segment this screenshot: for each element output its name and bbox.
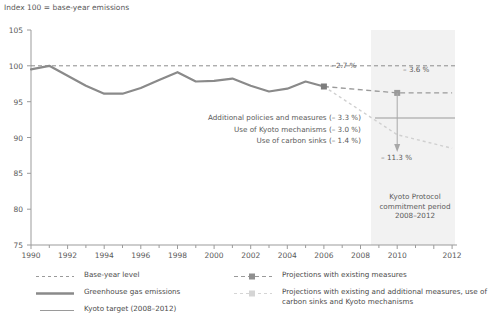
chart-legend: Base-year level Greenhouse gas emissions… [0, 266, 471, 322]
label-total-reduction: – 11.3 % [381, 153, 412, 162]
legend-label-projections-additional: Projections with existing and additional… [282, 287, 492, 307]
x-tick-label-2004: 2004 [270, 251, 304, 260]
kyoto-band-label-line-3: 2008–2012 [372, 211, 458, 221]
y-tick-label-90: 90 [1, 134, 23, 143]
legend-key-solid-thick-icon [34, 285, 78, 302]
legend-key-dashed-icon [34, 268, 78, 285]
kyoto-band-label-line-1: Kyoto Protocol [372, 192, 458, 202]
measure-line-3: Use of carbon sinks (– 1.4 %) [208, 135, 361, 147]
legend-label-greenhouse-gas-emissions: Greenhouse gas emissions [84, 287, 180, 297]
x-tick-label-2008: 2008 [344, 251, 378, 260]
x-tick-label-1996: 1996 [124, 251, 158, 260]
y-tick-label-80: 80 [1, 205, 23, 214]
label-emissions-2006: – 2.7 % [330, 61, 356, 70]
measure-line-2: Use of Kyoto mechanisms (– 3.0 %) [208, 124, 361, 136]
y-tick-label-100: 100 [1, 62, 23, 71]
legend-key-solid-thin-icon [34, 302, 78, 319]
x-tick-marks [31, 245, 452, 249]
measure-line-1: Additional policies and measures (– 3.3 … [208, 112, 361, 124]
x-tick-label-1992: 1992 [51, 251, 85, 260]
y-tick-label-95: 95 [1, 98, 23, 107]
marker-emissions-2006 [321, 84, 327, 90]
x-tick-label-2000: 2000 [197, 251, 231, 260]
x-tick-label-2002: 2002 [234, 251, 268, 260]
x-tick-label-2012: 2012 [435, 251, 469, 260]
legend-key-dashed-marker-icon [232, 268, 276, 285]
kyoto-band-label-line-2: commitment period [372, 202, 458, 212]
x-tick-label-1994: 1994 [87, 251, 121, 260]
y-tick-marks [27, 30, 31, 245]
legend-key-dotted-light-icon [232, 285, 276, 302]
x-tick-label-2006: 2006 [307, 251, 341, 260]
y-tick-label-75: 75 [1, 241, 23, 250]
label-projection-2010: – 3.6 % [403, 65, 429, 74]
y-tick-label-105: 105 [1, 26, 23, 35]
legend-label-base-year-level: Base-year level [84, 270, 139, 280]
x-tick-label-1998: 1998 [161, 251, 195, 260]
measures-annotation-block: Additional policies and measures (– 3.3 … [208, 112, 361, 147]
legend-label-kyoto-target: Kyoto target (2008–2012) [84, 304, 176, 314]
y-tick-label-85: 85 [1, 169, 23, 178]
greenhouse-gas-emissions-line [31, 66, 324, 94]
kyoto-band-label: Kyoto Protocol commitment period 2008–20… [372, 192, 458, 221]
x-tick-label-1990: 1990 [14, 251, 48, 260]
legend-label-projections-existing: Projections with existing measures [282, 270, 407, 280]
x-tick-label-2010: 2010 [380, 251, 414, 260]
